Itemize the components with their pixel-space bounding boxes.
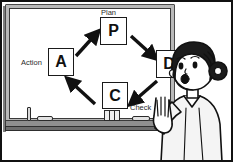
node-check: C	[102, 82, 128, 109]
node-check-letter: C	[109, 88, 121, 104]
label-action: Action	[21, 58, 42, 67]
arrow-check-to-action	[71, 82, 95, 104]
node-action: A	[48, 48, 74, 76]
node-action-letter: A	[55, 54, 67, 70]
pdca-whiteboard-illustration: P Plan A Action D Do C Check	[0, 0, 233, 162]
presenter-ear	[169, 70, 173, 77]
presenter-eye-right	[193, 62, 198, 69]
marker-pair-icon	[104, 110, 120, 121]
presenter-figure	[148, 40, 233, 162]
arrow-action-to-plan	[76, 35, 95, 56]
presenter-bun-center	[215, 68, 222, 75]
node-plan-letter: P	[108, 23, 119, 39]
label-plan: Plan	[101, 8, 116, 17]
eraser-icon	[37, 116, 53, 121]
marker-icon	[27, 107, 31, 121]
presenter-eye-left	[179, 63, 184, 70]
presenter-mouth	[181, 74, 189, 83]
node-plan: P	[100, 17, 127, 45]
